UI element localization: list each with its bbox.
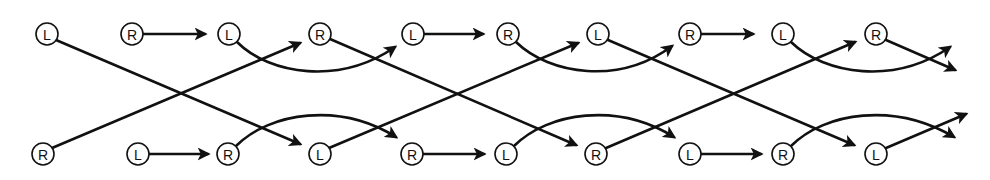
node-label: L — [502, 147, 510, 163]
foot-node-left: L — [36, 23, 58, 45]
node-label: R — [778, 147, 788, 163]
node-label: R — [38, 147, 48, 163]
straight-arrow-t10-to-exit-top-2 — [886, 40, 955, 70]
foot-node-right: R — [772, 143, 794, 165]
foot-node-left: L — [309, 143, 331, 165]
node-label: L — [134, 147, 142, 163]
foot-node-right: R — [679, 23, 701, 45]
node-label: R — [685, 27, 695, 43]
foot-node-right: R — [497, 23, 519, 45]
foot-node-left: L — [495, 143, 517, 165]
node-label: L — [872, 147, 880, 163]
foot-node-left: L — [587, 23, 609, 45]
node-label: L — [43, 27, 51, 43]
foot-node-right: R — [865, 23, 887, 45]
foot-node-left: L — [772, 23, 794, 45]
foot-node-left: L — [402, 23, 424, 45]
node-label: R — [315, 27, 325, 43]
foot-node-left: L — [218, 23, 240, 45]
straight-arrow-b7-to-t10 — [606, 42, 855, 148]
node-label: L — [225, 27, 233, 43]
straight-arrow-b10-to-exit-bottom-2 — [886, 114, 966, 148]
step-pattern-diagram: LRLRLRLRLRRLRLRLRLRL — [0, 0, 990, 180]
node-label: L — [594, 27, 602, 43]
foot-node-right: R — [32, 143, 54, 165]
foot-node-right: R — [121, 23, 143, 45]
foot-node-right: R — [217, 143, 239, 165]
foot-node-right: R — [309, 23, 331, 45]
node-label: R — [871, 27, 881, 43]
node-label: R — [591, 147, 601, 163]
node-label: L — [779, 27, 787, 43]
node-label: L — [686, 147, 694, 163]
straight-arrow-t7-to-b10 — [608, 40, 854, 145]
foot-node-left: L — [127, 143, 149, 165]
node-label: R — [127, 27, 137, 43]
foot-node-left: L — [865, 143, 887, 165]
foot-node-right: R — [585, 143, 607, 165]
node-label: R — [503, 27, 513, 43]
foot-node-left: L — [679, 143, 701, 165]
node-label: R — [223, 147, 233, 163]
node-label: L — [316, 147, 324, 163]
node-label: R — [407, 147, 417, 163]
foot-node-right: R — [401, 143, 423, 165]
arrow-edges — [52, 34, 966, 154]
node-label: L — [409, 27, 417, 43]
